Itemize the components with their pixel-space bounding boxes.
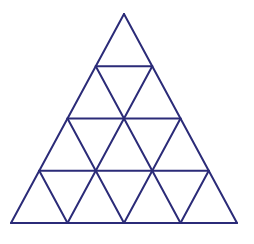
right-diagonal-line (96, 66, 181, 223)
left-diagonal-line (68, 66, 153, 223)
right-diagonal-line (39, 171, 67, 223)
left-diagonal-line (181, 171, 209, 223)
subdivided-triangle-diagram (0, 0, 254, 244)
